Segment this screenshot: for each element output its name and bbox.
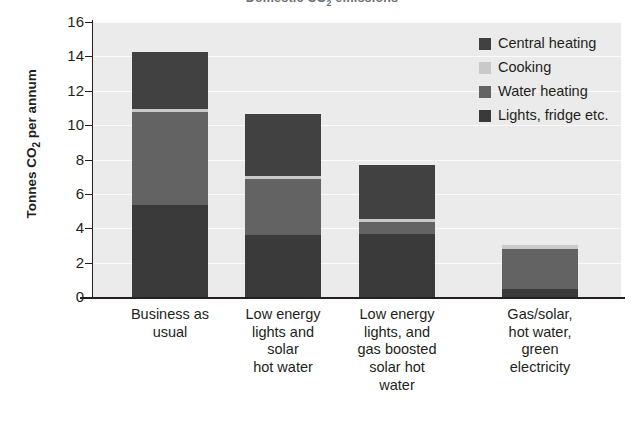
bar-segment[interactable] (245, 176, 321, 179)
legend-swatch-icon (479, 86, 491, 98)
bar-column[interactable] (245, 114, 321, 297)
bar-segment[interactable] (359, 222, 435, 234)
chart-container: Domestic CO2 emissions Tonnes CO2 per an… (0, 0, 644, 442)
bar-column[interactable] (359, 165, 435, 297)
x-axis-label-line: Low energy (329, 306, 465, 324)
legend-item[interactable]: Cooking (479, 57, 608, 78)
x-axis-category-label: Gas/solar,hot water,greenelectricity (472, 306, 608, 377)
legend-swatch-icon (479, 110, 491, 122)
legend-item-label: Central heating (498, 36, 596, 51)
y-axis-tick (85, 263, 93, 264)
legend-item[interactable]: Central heating (479, 33, 608, 54)
bar-segment[interactable] (132, 205, 208, 297)
bar-segment[interactable] (502, 289, 578, 297)
y-axis-tick-label: 6 (24, 186, 84, 201)
y-axis-tick (85, 56, 93, 57)
y-axis-tick (85, 228, 93, 229)
x-axis-label-line: hot water, (472, 324, 608, 342)
x-axis-label-line: Gas/solar, (472, 306, 608, 324)
bar-segment[interactable] (502, 245, 578, 248)
x-axis-label-line: lights, and (329, 324, 465, 342)
bar-column[interactable] (502, 245, 578, 297)
legend-swatch-icon (479, 62, 491, 74)
bar-segment[interactable] (245, 179, 321, 235)
y-axis-tick-label: 14 (24, 48, 84, 63)
x-axis-label-line: water (329, 377, 465, 395)
x-axis-label-line: solar hot (329, 359, 465, 377)
y-axis-tick-label: 2 (24, 255, 84, 270)
legend-item[interactable]: Lights, fridge etc. (479, 105, 608, 126)
legend-item[interactable]: Water heating (479, 81, 608, 102)
legend-item-label: Water heating (498, 84, 588, 99)
x-axis-label-line: green (472, 341, 608, 359)
legend-item-label: Cooking (498, 60, 551, 75)
y-axis-tick (85, 194, 93, 195)
y-axis-tick-label: 8 (24, 152, 84, 167)
bar-segment[interactable] (245, 114, 321, 176)
gridline (93, 22, 621, 23)
legend-swatch-icon (479, 38, 491, 50)
x-axis-label-line: gas boosted (329, 341, 465, 359)
y-axis-tick-label: 16 (24, 14, 84, 29)
x-axis-line (80, 297, 625, 299)
bar-segment[interactable] (502, 249, 578, 289)
bar-segment[interactable] (359, 219, 435, 222)
bar-segment[interactable] (245, 235, 321, 297)
bar-segment[interactable] (132, 52, 208, 109)
x-axis-category-label: Low energylights, andgas boostedsolar ho… (329, 306, 465, 394)
y-axis-tick (85, 160, 93, 161)
y-axis-tick-label: 0 (24, 289, 84, 304)
bar-column[interactable] (132, 52, 208, 297)
y-axis-tick-label: 10 (24, 117, 84, 132)
bar-segment[interactable] (132, 112, 208, 205)
chart-legend: Central heatingCookingWater heatingLight… (479, 33, 608, 126)
y-axis-tick (85, 125, 93, 126)
y-axis-tick (85, 297, 93, 298)
bar-segment[interactable] (132, 109, 208, 112)
y-axis-tick (85, 22, 93, 23)
chart-title: Domestic CO2 emissions (0, 0, 644, 8)
legend-item-label: Lights, fridge etc. (498, 108, 608, 123)
y-axis-tick-label: 12 (24, 83, 84, 98)
y-axis-tick (85, 91, 93, 92)
y-axis-tick-label: 4 (24, 220, 84, 235)
x-axis-label-line: electricity (472, 359, 608, 377)
bar-segment[interactable] (359, 165, 435, 219)
bar-segment[interactable] (359, 234, 435, 297)
